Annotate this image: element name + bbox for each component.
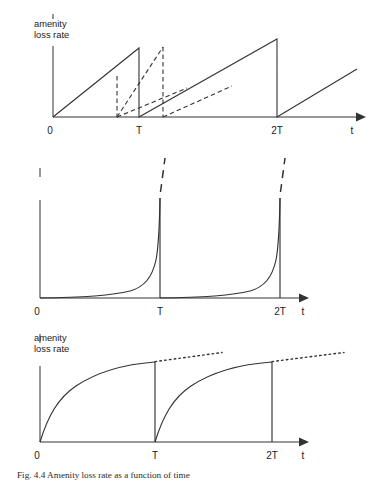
y-axis-label-line2: loss rate (34, 30, 69, 41)
asymptote-dash-group (161, 158, 286, 192)
x-axis-arrow-icon (356, 113, 366, 122)
x-axis-name: t (302, 306, 305, 317)
tick-label-zero: 0 (47, 125, 53, 136)
asymptote-dash-1 (161, 158, 166, 192)
x-axis-arrow-icon (299, 294, 309, 303)
convex-curve-cycle-1 (40, 198, 160, 298)
x-axis-name: t (302, 450, 305, 460)
dotted-continuation-2 (272, 353, 344, 362)
dotted-continuation-group (155, 353, 344, 362)
figure-caption: Fig. 4.4 Amenity loss rate as a function… (17, 470, 357, 481)
tick-label-T: T (152, 450, 158, 460)
concave-curve-cycle-2 (155, 362, 272, 442)
concave-series-group (40, 362, 272, 442)
tick-label-2T: 2T (266, 450, 278, 460)
tick-label-2T: 2T (271, 125, 283, 136)
y-axis-label: amenity loss rate (33, 19, 70, 42)
y-axis-label-line1: amenity (34, 19, 69, 30)
x-axis-arrow-icon (299, 438, 309, 447)
dashed-ramp-3 (163, 86, 232, 117)
chart-panel-concave: 0 T 2T t amenity loss rate (0, 320, 375, 460)
dashed-series-group (53, 47, 232, 117)
dashed-ramp-1 (117, 47, 163, 117)
convex-series-group (40, 198, 280, 298)
asymptote-dash-2 (281, 158, 286, 192)
solid-sawtooth-series (53, 39, 357, 117)
tick-label-zero: 0 (34, 306, 40, 317)
chart-panel-linear: 0 T 2T t amenity loss rate (0, 0, 375, 150)
dashed-ramp-2 (117, 88, 187, 117)
x-axis-name: t (351, 125, 354, 136)
chart-panel-convex: 0 T 2T t amenity loss rate (0, 150, 375, 320)
concave-curve-cycle-1 (40, 362, 155, 442)
tick-label-T: T (157, 306, 163, 317)
dashed-ramp-a-hidden (53, 76, 117, 117)
tick-label-zero: 0 (34, 450, 40, 460)
dotted-continuation-1 (155, 353, 222, 362)
convex-curve-cycle-2 (160, 198, 280, 298)
figure-amenity-loss-rate: 0 T 2T t amenity loss rate (0, 0, 375, 482)
tick-label-2T: 2T (274, 306, 286, 317)
tick-label-T: T (136, 125, 142, 136)
